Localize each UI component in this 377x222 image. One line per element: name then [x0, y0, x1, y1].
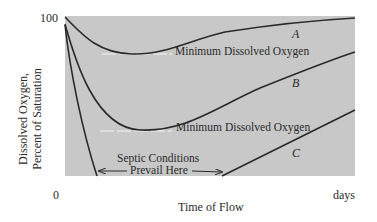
min-do-label-b: Minimum Dissolved Oxygen: [176, 121, 310, 134]
y-axis-title: Dissolved Oxygen, Percent of Saturation: [6, 55, 54, 183]
oxygen-sag-chart: A B C Minimum Dissolved Oxygen Minimum D…: [0, 0, 377, 222]
y-axis-title-line1: Dissolved Oxygen,: [16, 68, 30, 169]
min-do-label-a: Minimum Dissolved Oxygen: [175, 45, 309, 58]
curve-a-label: A: [291, 27, 300, 41]
plot-area: [65, 16, 355, 176]
y-tick-100: 100: [40, 11, 58, 25]
septic-label-line2: Prevail Here: [130, 164, 188, 176]
y-axis-title-line2: Percent of Saturation: [30, 68, 44, 169]
x-tick-0: 0: [53, 188, 59, 202]
x-axis-title: Time of Flow: [178, 200, 244, 214]
curve-b-label: B: [292, 76, 300, 90]
curve-c-label: C: [292, 146, 301, 160]
x-tick-days: days: [333, 188, 355, 202]
